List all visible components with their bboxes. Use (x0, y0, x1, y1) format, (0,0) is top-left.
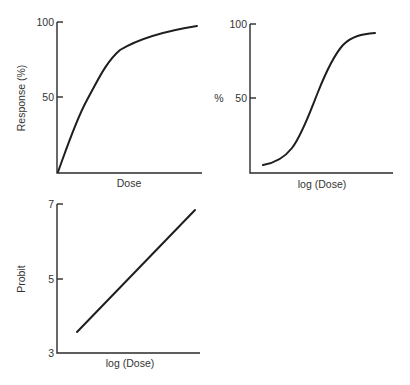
chart1-curve (58, 26, 197, 172)
chart3-tick-label-7: 7 (48, 198, 54, 210)
chart2-tick-label-100: 100 (229, 18, 247, 30)
chart2-x-axis-label: log (Dose) (298, 178, 346, 190)
chart-log-dose-response: 100 50 % log (Dose) (214, 18, 393, 190)
chart3-y-axis-label: Probit (15, 265, 27, 293)
chart2-tick-label-50: 50 (235, 92, 247, 104)
chart2-y-axis-label: % (214, 92, 223, 104)
chart-dose-response: 100 50 Response (%) Dose (15, 16, 202, 189)
chart1-tick-label-100: 100 (36, 16, 54, 28)
chart3-x-axis-label: log (Dose) (106, 357, 154, 369)
chart1-tick-label-50: 50 (42, 91, 54, 103)
chart2-axes (250, 24, 393, 173)
chart-probit: 7 5 3 Probit log (Dose) (15, 198, 200, 369)
chart2-curve (263, 33, 375, 165)
chart3-tick-label-3: 3 (48, 347, 54, 359)
chart3-tick-label-5: 5 (48, 273, 54, 285)
chart1-x-axis-label: Dose (117, 177, 142, 189)
chart1-y-axis-label: Response (%) (15, 65, 27, 132)
chart3-line (77, 210, 195, 332)
figure-canvas: 100 50 Response (%) Dose 100 50 % log (D… (0, 0, 410, 385)
